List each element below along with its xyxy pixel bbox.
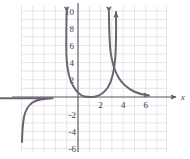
y-tick-4: 4 [70,58,75,68]
grid-lines [22,6,167,152]
left-branch [0,98,53,142]
x-axis-label: x [180,92,185,102]
y-tick-8: 8 [70,24,75,34]
x-tick-6: 6 [144,100,149,110]
y-tick-neg2: -2 [69,110,77,120]
x-tick-labels: 2 4 6 [98,100,148,110]
y-tick-neg6: -6 [69,144,77,154]
graph-svg: 10 8 6 4 2 -2 -4 -6 2 4 6 x [0,0,190,159]
axes [12,3,176,152]
function-graph-figure: 10 8 6 4 2 -2 -4 -6 2 4 6 x [0,0,190,159]
y-tick-neg4: -4 [69,127,77,137]
x-tick-4: 4 [121,100,126,110]
x-tick-2: 2 [98,100,103,110]
y-tick-6: 6 [70,41,75,51]
